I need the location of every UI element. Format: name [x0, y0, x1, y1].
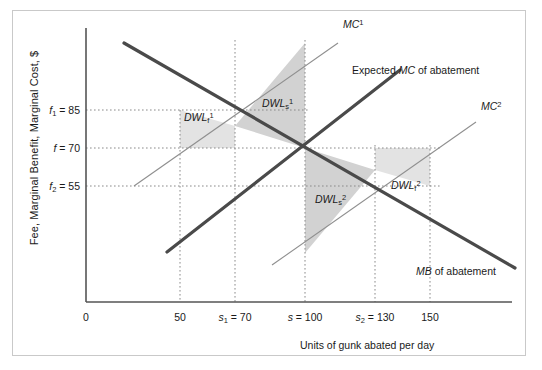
xtick-label-s1: s1 = 70 — [195, 311, 275, 325]
dwl-s2-base: DWL — [315, 193, 338, 205]
axis-title-x: Units of gunk abated per day — [300, 339, 434, 351]
shaded-region-dwl-s1 — [235, 43, 305, 148]
mb-suffix: of abatement — [432, 265, 496, 277]
dwl-s1-sup: 1 — [289, 97, 293, 106]
xtick-50-text: 50 — [174, 311, 186, 323]
curve-label-mc2-sup: 2 — [497, 100, 501, 109]
ytick-f2-value: = 55 — [56, 180, 80, 192]
xtick-label-0: 0 — [46, 311, 126, 323]
expected-mc-suffix: of abatement — [415, 64, 479, 76]
ytick-label-f1: f1 = 85 — [20, 104, 80, 118]
dwl-f2-sup: 2 — [416, 179, 420, 188]
xtick-label-s: s = 100 — [265, 311, 345, 323]
ytick-label-f2: f2 = 55 — [20, 180, 80, 194]
dwl-s1-base: DWL — [262, 97, 285, 109]
axis-title-x-text: Units of gunk abated per day — [300, 339, 434, 351]
xtick-s-value: = 100 — [293, 311, 323, 323]
curve-label-mc1-base: MC — [343, 18, 359, 30]
xtick-0-text: 0 — [83, 311, 89, 323]
dwl-f1-sup: 1 — [209, 111, 213, 120]
area-label-dwl-f2: DWLf2 — [391, 179, 421, 193]
expected-mc-emphasis: MC — [399, 64, 415, 76]
ytick-f-value: = 70 — [56, 142, 80, 154]
curve-label-mc2: MC2 — [481, 100, 502, 112]
curve-label-mc1: MC1 — [343, 18, 364, 30]
dwl-f2-base: DWL — [391, 179, 414, 191]
dwl-f1-base: DWL — [184, 111, 207, 123]
ytick-label-f: f = 70 — [20, 142, 80, 154]
area-label-dwl-s1: DWLs1 — [262, 97, 293, 111]
curve-label-mc1-sup: 1 — [359, 18, 363, 27]
figure-container: Fee, Marginal Benefit, Marginal Cost, $ … — [0, 0, 542, 370]
xtick-label-150: 150 — [390, 311, 470, 323]
curve-label-mc2-base: MC — [481, 100, 497, 112]
expected-mc-prefix: Expected — [352, 64, 399, 76]
mb-emphasis: MB — [416, 265, 432, 277]
area-label-dwl-f1: DWLf1 — [184, 111, 214, 125]
dwl-s2-sup: 2 — [342, 193, 346, 202]
ytick-f1-value: = 85 — [56, 104, 80, 116]
xtick-s1-value: = 70 — [228, 311, 252, 323]
curve-label-expected-mc: Expected MC of abatement — [352, 64, 479, 76]
area-label-dwl-s2: DWLs2 — [315, 193, 346, 207]
curve-label-mb: MB of abatement — [416, 265, 496, 277]
xtick-150-text: 150 — [421, 311, 439, 323]
